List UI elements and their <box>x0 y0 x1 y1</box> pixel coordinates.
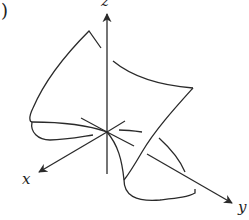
surface-left-loop-lower <box>32 122 93 140</box>
y-axis-segment-1 <box>107 132 134 146</box>
y-axis-label: y <box>238 200 246 215</box>
surface-left-loop <box>30 108 107 132</box>
3d-surface-diagram: ) z x y <box>0 0 249 220</box>
surface-right-top <box>113 61 193 88</box>
x-axis-label: x <box>22 172 30 187</box>
surface-bottom-loop <box>124 180 195 200</box>
surface-middle-segment <box>119 130 142 132</box>
neg-y-axis <box>81 118 107 132</box>
figure-label-fragment: ) <box>1 2 8 20</box>
surface-right-arc <box>159 138 185 172</box>
surface-plot <box>0 0 249 220</box>
z-axis-label: z <box>101 0 109 9</box>
surface-left-edge <box>33 31 101 108</box>
